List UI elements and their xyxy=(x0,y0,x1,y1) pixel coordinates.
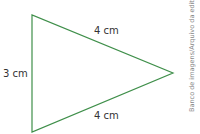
label-top-side: 4 cm xyxy=(94,25,119,36)
label-left-side: 3 cm xyxy=(3,68,28,79)
label-bottom-side: 4 cm xyxy=(94,110,119,121)
image-credit: Banco de imagens/Arquivo da editora xyxy=(188,0,196,112)
